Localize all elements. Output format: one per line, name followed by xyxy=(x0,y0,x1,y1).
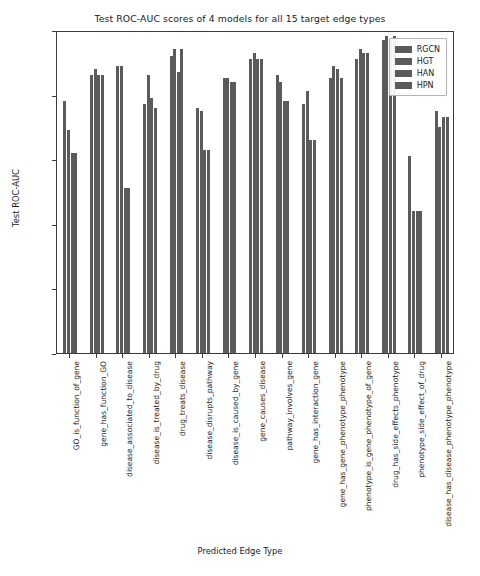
bar xyxy=(97,75,100,353)
x-axis-tick-mark xyxy=(255,354,256,358)
bar xyxy=(200,111,203,353)
x-axis-tick-mark xyxy=(122,354,123,358)
bar xyxy=(362,53,365,353)
x-axis-tick-label: gene_has_interaction_gene xyxy=(311,361,320,464)
bar xyxy=(173,49,176,353)
bar xyxy=(306,91,309,353)
bar xyxy=(233,82,236,353)
legend-item: HPN xyxy=(395,79,440,91)
legend-item: HAN xyxy=(395,67,440,79)
bar xyxy=(124,188,127,353)
bar xyxy=(260,59,263,353)
x-axis-tick-label: phenotype_side_effect_of_drug xyxy=(417,361,426,478)
bar xyxy=(71,153,74,353)
bar xyxy=(154,108,157,353)
x-axis-tick-mark xyxy=(361,354,362,358)
bar xyxy=(120,66,123,353)
x-axis-tick-label: disease_disrupts_pathway xyxy=(205,361,214,459)
bar xyxy=(340,78,343,353)
y-axis-label: Test ROC-AUC xyxy=(11,138,21,258)
x-axis-tick-mark xyxy=(282,354,283,358)
legend-label-han: HAN xyxy=(417,69,434,78)
bar xyxy=(329,78,332,353)
bar xyxy=(249,59,252,353)
bar xyxy=(313,140,316,353)
bar xyxy=(332,66,335,353)
legend-label-rgcn: RGCN xyxy=(417,45,440,54)
bar xyxy=(355,59,358,353)
bar xyxy=(147,75,150,353)
chart-title: Test ROC-AUC scores of 4 models for all … xyxy=(0,13,480,24)
x-axis-tick-mark xyxy=(228,354,229,358)
bar xyxy=(382,40,385,353)
bar xyxy=(336,69,339,353)
y-axis-tick-mark xyxy=(52,354,56,355)
bar xyxy=(359,49,362,353)
bar xyxy=(226,78,229,353)
x-axis-tick-label: disease_is_treated_by_drug xyxy=(152,361,161,464)
bar xyxy=(442,117,445,353)
x-axis-tick-label: pathway_involves_gene xyxy=(285,361,294,450)
x-axis-tick-label: disease_has_disease_phenotype_phenotype xyxy=(444,361,453,527)
legend-swatch-hpn xyxy=(395,82,412,89)
x-axis-label: Predicted Edge Type xyxy=(0,546,480,556)
bar xyxy=(101,75,104,353)
bar xyxy=(63,101,66,353)
bar xyxy=(412,211,415,353)
bar xyxy=(196,108,199,353)
bar xyxy=(230,82,233,353)
bar xyxy=(446,117,449,353)
bar xyxy=(67,130,70,353)
x-axis-tick-label: drug_has_side_effects_phenotype xyxy=(391,361,400,488)
legend-label-hpn: HPN xyxy=(417,81,434,90)
bar xyxy=(302,104,305,353)
bar xyxy=(177,72,180,353)
bar xyxy=(408,156,411,353)
x-axis-tick-mark xyxy=(441,354,442,358)
x-axis-tick-label: GO_is_function_of_gene xyxy=(72,361,81,450)
bar xyxy=(150,98,153,353)
bar xyxy=(256,59,259,353)
bar xyxy=(180,49,183,353)
bar xyxy=(203,150,206,353)
x-axis-tick-mark xyxy=(96,354,97,358)
bar xyxy=(223,78,226,353)
bar xyxy=(385,36,388,353)
chart-legend: RGCN HGT HAN HPN xyxy=(389,38,447,96)
x-axis-tick-label: disease_is_caused_by_gene xyxy=(231,361,240,465)
bar xyxy=(94,69,97,353)
bar xyxy=(416,211,419,353)
bar xyxy=(419,211,422,353)
x-axis-tick-mark xyxy=(414,354,415,358)
bar xyxy=(74,153,77,353)
plot-area: RGCN HGT HAN HPN xyxy=(56,31,454,354)
x-axis-tick-label: gene_has_function_GO xyxy=(99,361,108,447)
bar xyxy=(207,150,210,353)
legend-swatch-han xyxy=(395,70,412,77)
legend-item: RGCN xyxy=(395,43,440,55)
x-axis-tick-mark xyxy=(335,354,336,358)
x-axis-tick-mark xyxy=(388,354,389,358)
legend-label-hgt: HGT xyxy=(417,57,434,66)
x-axis-tick-label: disease_associated_to_disease xyxy=(125,361,134,477)
bar xyxy=(90,75,93,353)
bar xyxy=(283,101,286,353)
legend-swatch-hgt xyxy=(395,58,412,65)
x-axis-tick-mark xyxy=(202,354,203,358)
bar xyxy=(286,101,289,353)
bar xyxy=(143,104,146,353)
x-axis-tick-label: drug_treats_disease xyxy=(178,361,187,436)
bar xyxy=(253,53,256,353)
chart-figure: Test ROC-AUC scores of 4 models for all … xyxy=(0,0,480,576)
bar xyxy=(438,127,441,353)
x-axis-tick-mark xyxy=(308,354,309,358)
bar xyxy=(116,66,119,353)
x-axis-tick-label: phenotype_is_gene_phenotype_of_gene xyxy=(364,361,373,511)
bar xyxy=(366,53,369,353)
x-axis-tick-label: gene_has_gene_phenotype_phenotype xyxy=(338,361,347,507)
legend-swatch-rgcn xyxy=(395,46,412,53)
bar xyxy=(279,82,282,353)
x-axis-tick-label: gene_causes_disease xyxy=(258,361,267,442)
bar xyxy=(170,56,173,353)
x-axis-tick-mark xyxy=(69,354,70,358)
